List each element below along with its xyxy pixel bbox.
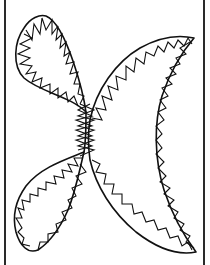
upper-left-wing [16, 16, 86, 113]
lower-left-wing [14, 152, 86, 251]
butterfly-drawing [0, 0, 210, 265]
right-crescent [89, 36, 197, 252]
